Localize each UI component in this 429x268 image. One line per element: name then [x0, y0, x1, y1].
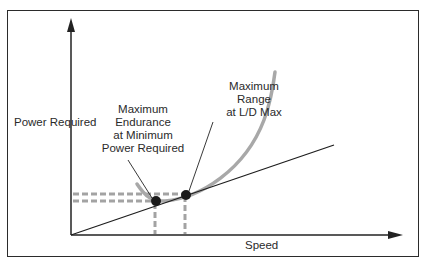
- point-ld-max: [181, 190, 191, 200]
- annotation-line: Maximum: [214, 80, 294, 93]
- diagram-canvas: [0, 0, 429, 268]
- annotation-line: Maximum: [98, 103, 188, 116]
- leader-line-range: [189, 122, 213, 191]
- y-axis-arrow-icon: [67, 18, 75, 32]
- annotation-max-endurance: Maximum Endurance at Minimum Power Requi…: [98, 103, 188, 155]
- annotation-line: Range: [214, 93, 294, 106]
- y-axis-label: Power Required: [14, 116, 64, 129]
- annotation-line: Power Required: [98, 142, 188, 155]
- tangent-line: [71, 145, 334, 235]
- annotation-line: at L/D Max: [214, 106, 294, 119]
- point-min-power: [151, 196, 161, 206]
- annotation-line: at Minimum: [98, 129, 188, 142]
- y-axis-label-text: Power Required: [14, 116, 64, 129]
- annotation-line: Endurance: [98, 116, 188, 129]
- annotation-max-range: Maximum Range at L/D Max: [214, 80, 294, 119]
- leader-line-endurance: [128, 160, 152, 198]
- x-axis-arrow-icon: [388, 231, 403, 239]
- x-axis-label: Speed: [245, 239, 295, 252]
